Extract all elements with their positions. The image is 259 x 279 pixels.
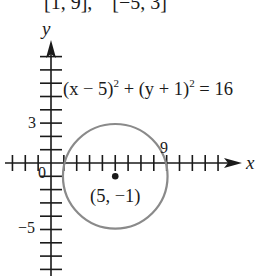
equation-part-1: (x − 5) xyxy=(63,79,114,99)
origin-label: 0 xyxy=(38,164,46,182)
y-tick-label-neg5: −5 xyxy=(18,219,35,237)
equation-part-2: + (y + 1) xyxy=(119,79,189,99)
circle-equation: (x − 5)2 + (y + 1)2 = 16 xyxy=(63,79,233,100)
center-point xyxy=(112,173,119,180)
y-axis-label: y xyxy=(42,18,50,40)
x-axis-label: x xyxy=(246,152,254,174)
equation-part-3: = 16 xyxy=(195,79,233,99)
y-tick-label-3: 3 xyxy=(28,114,36,132)
coordinate-plane xyxy=(0,0,259,279)
x-tick-label-9: 9 xyxy=(160,139,168,157)
center-label: (5, −1) xyxy=(90,186,141,207)
